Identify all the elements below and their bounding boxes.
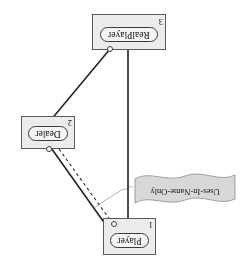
edge-player-dealer bbox=[49, 145, 108, 228]
diagram-rotated-group: Player 1 Dealer 2 RealPlayer 3 Uses-In-N… bbox=[0, 0, 245, 265]
note-text: Uses-In-Name-Only bbox=[133, 188, 237, 197]
edge-dealer-realplayer bbox=[50, 49, 110, 121]
socket-circle-player bbox=[111, 221, 117, 227]
object-number-dealer: 2 bbox=[68, 119, 72, 128]
object-number-realplayer: 3 bbox=[159, 18, 163, 27]
edge-dealer-player-dashed bbox=[59, 149, 113, 224]
socket-circle-realplayer bbox=[107, 46, 113, 52]
note-leader-line bbox=[95, 187, 133, 207]
object-label-realplayer: RealPlayer bbox=[100, 27, 158, 42]
diagram-canvas: Player 1 Dealer 2 RealPlayer 3 Uses-In-N… bbox=[0, 0, 245, 265]
object-label-player: Player bbox=[110, 233, 149, 248]
object-number-player: 1 bbox=[149, 221, 153, 230]
socket-circle-dealer bbox=[46, 146, 52, 152]
object-label-dealer: Dealer bbox=[28, 126, 68, 141]
clipped-caption bbox=[8, 254, 233, 263]
note-banner[interactable]: Uses-In-Name-Only bbox=[133, 169, 237, 209]
